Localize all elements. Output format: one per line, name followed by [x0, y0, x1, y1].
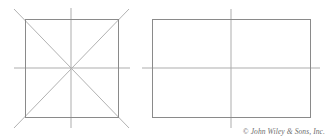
figure-drawing	[0, 0, 331, 140]
copyright-credit: © John Wiley & Sons, Inc.	[243, 127, 325, 137]
figure-canvas: © John Wiley & Sons, Inc.	[0, 0, 331, 140]
square-with-diagonals-group	[14, 8, 130, 128]
rectangle-with-centerlines-group	[142, 9, 320, 128]
rectangle-centerlines	[142, 9, 320, 128]
